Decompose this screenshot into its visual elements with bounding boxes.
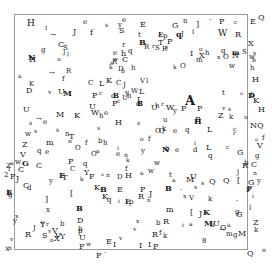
scatter-glyph: T [62, 174, 67, 182]
scatter-glyph: k [162, 126, 166, 133]
scatter-glyph: a [140, 170, 144, 176]
scatter-glyph: h [99, 113, 104, 120]
scatter-glyph: r [161, 101, 164, 107]
scatter-glyph: k [163, 233, 167, 240]
scatter-glyph: e [83, 19, 87, 26]
scatter-glyph: I [113, 241, 116, 249]
scatter-glyph: k [208, 196, 212, 203]
scatter-glyph: O [75, 145, 81, 152]
scatter-glyph: e [175, 147, 179, 154]
scatter-glyph: O [223, 54, 229, 61]
scatter-glyph: v [119, 235, 122, 241]
scatter-glyph: V [52, 227, 58, 235]
scatter-glyph: Q [247, 250, 254, 258]
scatter-glyph: f [90, 29, 93, 37]
scatter-glyph: q [37, 148, 41, 155]
scatter-glyph: K [106, 77, 112, 85]
scatter-glyph: c [117, 98, 120, 104]
scatter-glyph: P [197, 105, 202, 113]
scatter-glyph: f [159, 230, 162, 237]
scatter-glyph: n [183, 18, 188, 25]
scatter-glyph: B [137, 100, 143, 107]
scatter-glyph: y [49, 178, 53, 185]
scatter-glyph: J [33, 225, 36, 232]
scatter-glyph: p [129, 199, 133, 206]
scatter-glyph: s [97, 125, 100, 131]
scatter-glyph: · [236, 198, 238, 205]
scatter-glyph: · [209, 16, 212, 24]
scatter-glyph: G [236, 211, 242, 219]
scatter-glyph: w [154, 160, 160, 167]
scatter-glyph: b [98, 138, 102, 145]
scatter-glyph: L [99, 80, 104, 88]
scatter-glyph: C [122, 56, 128, 64]
scatter-glyph: u [57, 56, 61, 62]
scatter-glyph: o [101, 172, 104, 177]
scatter-glyph: A [185, 94, 195, 107]
scatter-glyph: C [36, 162, 42, 170]
scatter-glyph: y [125, 90, 129, 97]
scatter-glyph: s [34, 128, 37, 134]
scatter-glyph: R [112, 59, 117, 66]
scatter-glyph: M [56, 111, 64, 119]
scatter-glyph: e [45, 149, 49, 156]
scatter-glyph: h [103, 140, 108, 147]
scatter-glyph: c [226, 144, 229, 150]
scatter-glyph: s [137, 120, 140, 126]
scatter-glyph: o [240, 91, 243, 96]
scatter-glyph: k [229, 114, 233, 121]
scatter-glyph: s [201, 180, 204, 186]
scatter-glyph: b [244, 160, 248, 167]
scatter-glyph: w [148, 168, 154, 175]
scatter-glyph: q [107, 197, 111, 204]
scatter-glyph: o [50, 237, 54, 243]
scatter-glyph: I [148, 241, 151, 249]
scatter-glyph: s [194, 184, 197, 190]
scatter-glyph: s [29, 120, 32, 126]
scatter-glyph: a [189, 221, 193, 227]
scatter-glyph: d [27, 185, 31, 192]
scatter-glyph: R [152, 231, 158, 239]
scatter-glyph: M [238, 230, 246, 238]
scatter-glyph: N [250, 122, 257, 130]
scatter-glyph: t [222, 90, 225, 97]
scatter-glyph: F [89, 173, 95, 181]
scatter-glyph: L [206, 144, 211, 152]
scatter-glyph: Y [40, 221, 45, 229]
scatter-glyph: i [182, 222, 184, 228]
scatter-glyph: m [166, 206, 174, 214]
scatter-glyph: B [165, 184, 172, 192]
scatter-glyph: Q [223, 177, 230, 185]
scatter-glyph: R [163, 218, 169, 226]
scatter-glyph: → [50, 32, 56, 39]
scatter-glyph: F [79, 243, 85, 251]
scatter-glyph: D [26, 87, 32, 95]
scatter-glyph: Y [60, 233, 65, 241]
scatter-glyph: X [248, 40, 254, 48]
scatter-glyph: R [25, 231, 31, 239]
scatter-glyph: e [173, 128, 177, 135]
scatter-glyph: J [63, 49, 65, 55]
scatter-glyph: M [63, 89, 72, 97]
scatter-glyph: h [250, 65, 255, 72]
scatter-glyph: R [138, 193, 144, 201]
scatter-glyph: x [136, 218, 139, 224]
scatter-glyph: m [196, 57, 203, 64]
scatter-glyph: P [153, 243, 158, 251]
scatter-glyph: g [255, 153, 259, 160]
scatter-glyph: u [244, 114, 248, 120]
scatter-glyph: r [122, 42, 125, 49]
scatter-glyph: q [128, 48, 132, 55]
scatter-glyph: E [106, 238, 112, 246]
scatter-glyph: J [123, 82, 126, 89]
scatter-glyph: c [99, 90, 102, 96]
scatter-glyph: v [10, 236, 13, 242]
scatter-glyph: s [105, 22, 108, 28]
scatter-glyph: E [117, 186, 123, 194]
scatter-glyph: J [73, 28, 76, 36]
scatter-glyph: a [96, 148, 100, 154]
scatter-glyph: e [104, 110, 108, 117]
scatter-glyph: U [23, 106, 30, 114]
scatter-glyph: P [219, 18, 224, 26]
scatter-glyph: S [242, 49, 247, 56]
